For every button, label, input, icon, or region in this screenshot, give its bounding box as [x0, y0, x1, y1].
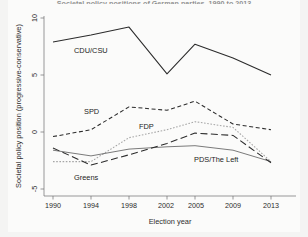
plot-card: Societal policy positions of German part…	[8, 0, 300, 232]
y-tick-label-10: 10	[30, 14, 39, 22]
x-axis-label: Election year	[149, 217, 192, 226]
y-tick-label-neg5: -5	[30, 186, 39, 192]
series-label-cdu-csu: CDU/CSU	[74, 46, 108, 55]
series-label-fdp: FDP	[139, 122, 154, 131]
series-label-greens: Greens	[74, 173, 99, 182]
figure-container: Societal policy positions of German part…	[0, 0, 308, 237]
chart-title-clipped: Societal policy positions of German part…	[57, 0, 252, 8]
x-tick-label-1998: 1998	[121, 201, 137, 210]
x-tick-label-2009: 2009	[225, 201, 241, 210]
y-tick-label-0: 0	[30, 130, 39, 134]
series-label-spd: SPD	[84, 107, 99, 116]
x-tick-label-1990: 1990	[45, 201, 61, 210]
line-chart: Societal policy positions of German part…	[8, 0, 300, 232]
y-axis-label: Societal policy position (progressive-co…	[14, 24, 23, 188]
series-label-pds-the-left: PDS/The Left	[194, 155, 238, 164]
x-tick-label-2002: 2002	[158, 201, 174, 210]
chart-title: Societal policy positions of German part…	[57, 0, 252, 8]
x-tick-label-2013: 2013	[263, 201, 279, 210]
y-tick-label-5: 5	[30, 73, 39, 77]
x-tick-label-2005: 2005	[188, 201, 204, 210]
x-tick-label-1994: 1994	[83, 201, 99, 210]
